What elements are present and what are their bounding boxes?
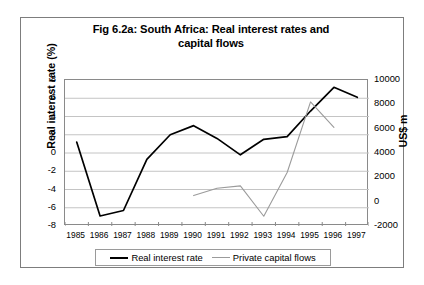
y-tick-label-right: 6000 xyxy=(374,123,408,132)
legend-line-icon-private-capital-flows xyxy=(212,257,230,258)
gridlines xyxy=(65,98,369,208)
x-axis-tick-marks xyxy=(65,222,369,226)
y-tick-label-left: 6 xyxy=(34,92,56,101)
plot-area xyxy=(64,79,368,225)
legend-item-private-capital-flows: Private capital flows xyxy=(212,253,316,263)
chart-title-line-2: capital flows xyxy=(46,36,376,50)
y-tick-label-right: 2000 xyxy=(374,171,408,180)
y-tick-label-left: -6 xyxy=(34,202,56,211)
y-tick-label-right: 0 xyxy=(374,196,408,205)
chart-title: Fig 6.2a: South Africa: Real interest ra… xyxy=(46,22,376,50)
y-tick-label-left: 2 xyxy=(34,129,56,138)
legend-label-private-capital-flows: Private capital flows xyxy=(233,253,316,263)
chart-title-line-1: Fig 6.2a: South Africa: Real interest ra… xyxy=(46,22,376,36)
legend-item-real-interest-rate: Real interest rate xyxy=(110,253,202,263)
legend-label-real-interest-rate: Real interest rate xyxy=(131,253,202,263)
x-tick-label: 1997 xyxy=(341,231,371,240)
y-tick-label-left: -2 xyxy=(34,165,56,174)
plot-svg xyxy=(65,80,369,226)
y-tick-label-right: 4000 xyxy=(374,147,408,156)
y-tick-label-left: -4 xyxy=(34,184,56,193)
figure-root: Fig 6.2a: South Africa: Real interest ra… xyxy=(0,0,424,285)
y-tick-label-left: 0 xyxy=(34,147,56,156)
y-tick-label-right: -2000 xyxy=(374,220,408,229)
y-tick-label-left: 4 xyxy=(34,111,56,120)
data-series xyxy=(77,87,358,216)
y-tick-label-right: 8000 xyxy=(374,98,408,107)
y-tick-label-right: 10000 xyxy=(374,74,408,83)
y-tick-label-left: 8 xyxy=(34,74,56,83)
legend-line-icon-real-interest-rate xyxy=(110,257,128,259)
chart-legend: Real interest rate Private capital flows xyxy=(95,249,331,266)
series-line-private-capital-flows xyxy=(194,102,334,216)
y-tick-label-left: -8 xyxy=(34,220,56,229)
